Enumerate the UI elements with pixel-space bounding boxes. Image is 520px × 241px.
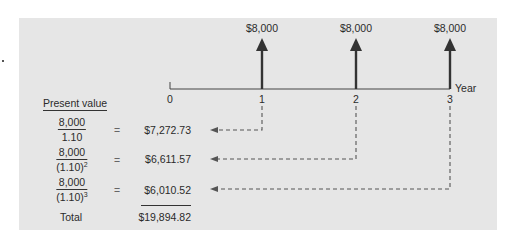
present-value-heading: Present value (43, 97, 107, 111)
fraction-denominator: (1.10)3 (56, 190, 87, 203)
tick-year-3: 3 (447, 93, 453, 105)
cash-flow-amount-year-1: $8,000 (246, 22, 278, 34)
discount-path-year-3 (218, 106, 450, 189)
discount-path-year-2 (218, 106, 356, 159)
denominator-exponent: 2 (84, 161, 88, 168)
present-value-year-2: $6,611.57 (111, 153, 191, 165)
cash-flow-arrow-year-2 (350, 38, 362, 89)
axis-label-year: Year (455, 82, 476, 94)
denominator-exponent: 3 (84, 191, 88, 198)
discount-fraction-year-2: 8,000 (1.10)2 (56, 146, 87, 173)
arrowhead-left-icon (210, 127, 218, 133)
arrowhead-left-icon (210, 186, 218, 192)
discount-fraction-year-3: 8,000 (1.10)3 (56, 176, 87, 203)
tick-year-1: 1 (259, 93, 265, 105)
discount-fraction-year-1: 8,000 1.10 (58, 116, 86, 143)
cash-flow-arrow-year-1 (256, 38, 268, 89)
denominator-base: 1.10 (62, 131, 82, 143)
denominator-base: (1.10) (56, 161, 83, 173)
fraction-denominator: 1.10 (58, 130, 86, 143)
fraction-numerator: 8,000 (58, 116, 86, 130)
cash-flow-amount-year-2: $8,000 (340, 22, 372, 34)
cash-flow-amount-year-3: $8,000 (434, 22, 466, 34)
fraction-denominator: (1.10)2 (56, 160, 87, 173)
total-underline (141, 205, 191, 206)
discount-path-year-1 (218, 106, 262, 130)
fraction-numerator: 8,000 (56, 146, 87, 160)
total-label: Total (60, 211, 82, 223)
tick-year-0: 0 (167, 93, 173, 105)
denominator-base: (1.10) (56, 191, 83, 203)
arrowhead-left-icon (210, 156, 218, 162)
fraction-numerator: 8,000 (56, 176, 87, 190)
tick-year-2: 2 (353, 93, 359, 105)
total-present-value: $19,894.82 (111, 211, 191, 223)
present-value-year-1: $7,272.73 (111, 124, 191, 136)
present-value-year-3: $6,010.52 (111, 184, 191, 196)
